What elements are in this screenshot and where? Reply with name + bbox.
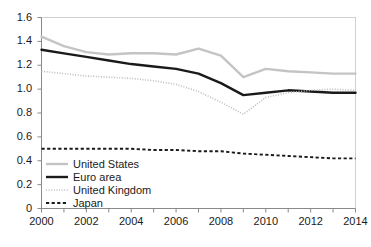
legend-label: United Kingdom [73,184,151,196]
x-tick-label: 2008 [201,216,241,227]
y-tick-label: 1.4 [2,35,32,46]
series-lines [42,37,356,159]
y-tick-label: 1.2 [2,59,32,70]
legend-swatch-icon [46,185,68,195]
legend-label: United States [73,158,139,170]
legend-label: Japan [73,197,103,209]
x-tick-label: 2010 [246,216,286,227]
legend-swatch-icon [46,172,68,182]
x-tick-label: 2014 [336,216,371,227]
legend-swatch-icon [46,198,68,208]
line-chart: 00.20.40.60.81.01.21.41.6 20002002200420… [0,0,371,247]
legend-item: Japan [46,197,151,209]
y-tick-label: 0.6 [2,131,32,142]
y-tick-label: 0.8 [2,107,32,118]
x-tick-label: 2004 [111,216,151,227]
x-tick-label: 2012 [291,216,331,227]
series-line [42,149,356,159]
series-line [42,71,356,114]
y-tick-label: 1.6 [2,12,32,23]
x-tick-label: 2006 [156,216,196,227]
legend-item: Euro area [46,171,151,183]
legend: United StatesEuro areaUnited KingdomJapa… [46,158,151,210]
x-tick-label: 2000 [22,216,62,227]
y-tick-label: 0 [2,203,32,214]
x-tick-label: 2002 [66,216,106,227]
legend-swatch-icon [46,159,68,169]
y-tick-label: 0.2 [2,179,32,190]
legend-label: Euro area [73,171,121,183]
y-tick-label: 0.4 [2,155,32,166]
legend-item: United Kingdom [46,184,151,196]
legend-item: United States [46,158,151,170]
y-tick-label: 1.0 [2,83,32,94]
